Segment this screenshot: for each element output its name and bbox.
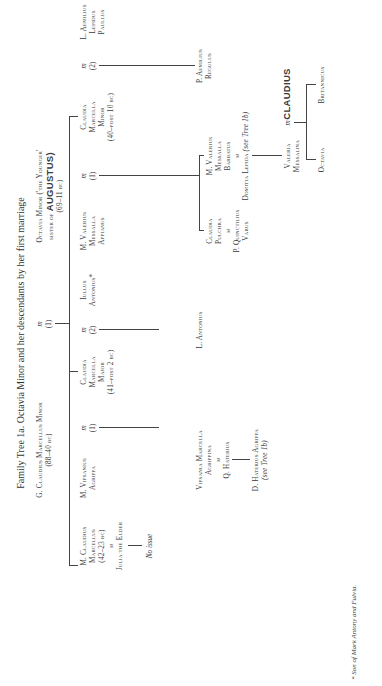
tree-connector [199,230,204,231]
name-line: P. Aemilius [196,49,205,83]
marriage-symbol: m [284,120,293,125]
name-line: (40–post 10 bc) [107,93,116,141]
name-line: M. Vipsanius [80,458,89,498]
name-line: Pulchra [215,210,224,253]
tree-connector [252,155,282,156]
marriage-label: m (2) [80,326,98,334]
name-line: Claudia [206,210,215,253]
tree-connector [99,175,199,176]
name-line: (41–post 2 bc) [107,350,116,394]
person-octavia: Octavia [318,148,327,172]
spouse-name: Varus [242,210,251,253]
person-vipsania-marcella-agrippina: Vipsania Marcella Agrippina m Q. Hateriu… [196,430,232,490]
name-line: M. Valerius [206,112,215,201]
person-dates: (69–11 bc) [56,149,65,242]
person-britannicus: Britannicus [318,67,327,104]
marriage-number: (1) [45,320,54,328]
marriage-symbol: m [233,112,242,201]
name-line: Messalla [89,212,98,250]
person-dates: (88–40 bc) [45,402,54,497]
person-claudius: CLAUDIUS [282,68,291,119]
name-line: Marcellus [89,522,98,571]
spouse-name: Q. Haterius [223,430,232,490]
person-l-aemilius-lepidus-paullus: L. Aemilius Lepidus Paullus [80,4,107,39]
spouse-name: Julia the Elder [116,522,125,571]
name-line: Messalla [215,112,224,201]
relation-prefix: sister of [47,213,55,240]
tree-connector [306,84,307,160]
tree-connector [99,329,159,330]
name-line: Iullus [80,274,89,306]
marriage-symbol: m [36,320,45,328]
person-l-antonius: L. Antonius [196,312,205,349]
marriage-number: (2) [89,326,98,334]
tree-connector [294,122,306,123]
person-claudia-pulchra: Claudia Pulchra m P. Quinctilius Varus [206,210,251,253]
tree-connector [199,155,200,231]
person-m-valerius-messalla-barbatus: M. Valerius Messalla Barbatus m Domitia … [206,112,251,201]
name-line: Valeria [284,140,293,172]
name-line: Minor [98,93,107,141]
name-line: Paullus [98,4,107,39]
marriage-label: m (1) [80,172,98,180]
marriage-number: (1) [89,424,98,432]
name-line: Claudia [80,93,89,141]
marriage-1-label: m (1) [36,320,54,328]
name-line: M. Valerius [80,212,89,250]
person-m-claudius-marcellus: M. Claudius Marcellus (42–23 bc) m Julia… [80,522,125,571]
tree-connector [99,65,195,66]
name-line: Antonius* [89,274,98,306]
marriage-symbol: m [224,210,233,253]
no-issue-label: No issue [146,534,155,559]
family-tree-page: Family Tree 1a. Octavia Minor and her de… [0,0,382,686]
person-name: G. Claudius Marcellus Minor [36,402,45,497]
person-p-aemilius-regulus: P. Aemilius Regulus [196,49,214,83]
tree-connector [69,116,70,566]
name-line: (42–23 bc) [98,522,107,571]
marriage-number: (1) [89,172,98,180]
name-line: D. Haterius Agrippa [252,429,261,491]
tree-connector [306,159,316,160]
tree-connector [232,459,250,460]
footnote: * Son of Mark Antony and Fulvia. [350,585,358,680]
tree-connector [128,545,142,546]
person-iullus-antonius: Iullus Antonius* [80,274,98,306]
marriage-label: m (1) [80,424,98,432]
name-line: Agrippa [89,458,98,498]
tree-connector [69,116,78,117]
name-line: Messalina [293,140,302,172]
tree-connector [69,565,78,566]
marriage-symbol: m [80,424,89,432]
tree-connector [55,323,69,324]
name-line: Marcella [89,93,98,141]
person-m-vipsanius-agrippa: M. Vipsanius Agrippa [80,458,98,498]
tree-connector [99,427,159,428]
tree-connector [199,155,204,156]
page-title: Family Tree 1a. Octavia Minor and her de… [15,0,26,686]
name-line: Agrippina [205,430,214,490]
spouse-name: Domitia Lepida [242,153,250,200]
cross-reference-note: (see Tree 1b) [261,429,270,491]
name-line: L. Aemilius [80,4,89,39]
cross-reference-note: (see Tree 1b) [242,112,250,152]
marriage-label: m (2) [80,62,98,70]
marriage-symbol: m [80,326,89,334]
person-claudia-marcella-major: Claudia Marcella Major (41–post 2 bc) [80,350,116,394]
person-valeria-messalina: Valeria Messalina [284,140,302,172]
tree-connector [69,371,78,372]
name-line: Vipsania Marcella [196,430,205,490]
person-g-claudius-marcellus: G. Claudius Marcellus Minor (88–40 bc) [36,402,54,497]
relation-name: AUGUSTUS) [44,152,55,211]
person-m-valerius-messalla-appianus: M. Valerius Messalla Appianus [80,212,107,250]
person-claudia-marcella-minor: Claudia Marcella Minor (40–post 10 bc) [80,93,116,141]
marriage-symbol: m [80,62,89,70]
person-octavia-minor: Octavia Minor ('the Younger' sister of A… [36,149,65,242]
person-d-haterius-agrippa: D. Haterius Agrippa (see Tree 1b) [252,429,270,491]
name-line: M. Claudius [80,522,89,571]
marriage-symbol: m [80,172,89,180]
name-line: Major [98,350,107,394]
name-line: Marcella [89,350,98,394]
marriage-symbol: m [107,522,116,571]
name-line: Lepidus [89,4,98,39]
marriage-symbol: m [214,430,223,490]
